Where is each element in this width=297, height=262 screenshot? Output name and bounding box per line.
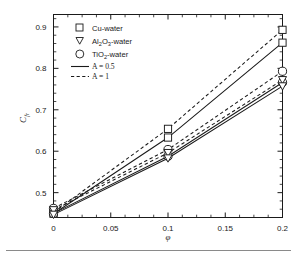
figure-container: 00.050.10.150.20.50.60.70.80.9 φ Cfr Cu-… bbox=[0, 0, 297, 262]
marker-square-cu-water bbox=[164, 134, 171, 141]
marker-square-cu-water bbox=[164, 125, 171, 132]
legend-marker-square-icon bbox=[76, 24, 83, 31]
svg-text:Cfr: Cfr bbox=[18, 112, 30, 123]
x-tick-label: 0 bbox=[51, 224, 56, 233]
y-tick-label: 0.7 bbox=[35, 106, 47, 115]
legend-label-cu-water: Cu-water bbox=[92, 24, 123, 33]
legend-label-tio2-water: TiO2-water bbox=[92, 50, 129, 60]
y-tick-label: 0.6 bbox=[35, 147, 47, 156]
legend-label-a-one: A = 1 bbox=[92, 72, 109, 81]
y-axis-title: Cfr bbox=[18, 112, 30, 123]
marker-square-cu-water bbox=[279, 26, 286, 33]
y-tick-label: 0.9 bbox=[35, 23, 47, 32]
footer-divider bbox=[6, 250, 291, 251]
legend-marker-circle-icon bbox=[76, 50, 84, 58]
y-axis-title-sub: fr bbox=[24, 112, 30, 117]
marker-circle-tio2-water bbox=[278, 67, 286, 75]
y-tick-label: 0.8 bbox=[35, 64, 47, 73]
legend-label-a-half: A = 0.5 bbox=[92, 62, 115, 71]
legend-label-al2o3-water: Al2O3-water bbox=[92, 37, 133, 47]
x-tick-label: 0.05 bbox=[103, 224, 119, 233]
x-axis-title: φ bbox=[166, 232, 171, 242]
marker-square-cu-water bbox=[279, 39, 286, 46]
x-tick-label: 0.2 bbox=[277, 224, 289, 233]
x-tick-label: 0.15 bbox=[217, 224, 233, 233]
chart-canvas: 00.050.10.150.20.50.60.70.80.9 φ Cfr Cu-… bbox=[0, 0, 297, 262]
y-tick-label: 0.5 bbox=[35, 189, 47, 198]
